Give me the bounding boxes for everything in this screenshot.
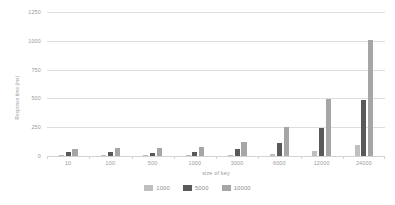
bar-group: 1000 (174, 12, 216, 156)
y-tick-label: 500 (31, 95, 41, 101)
bar (241, 142, 246, 156)
legend-item[interactable]: 5000 (183, 185, 209, 191)
bar (108, 152, 113, 156)
bar (186, 155, 191, 156)
y-tick-label: 250 (31, 124, 41, 130)
x-tick-mark (301, 156, 302, 159)
legend-item[interactable]: 10000 (222, 185, 251, 191)
bar (157, 148, 162, 156)
bar (72, 149, 77, 156)
legend-item[interactable]: 1000 (144, 185, 170, 191)
y-tick-label: 0 (38, 153, 41, 159)
bar (59, 155, 64, 156)
bar-groups: 101005001000300060001200024000 (47, 12, 385, 156)
x-tick-mark (343, 156, 344, 159)
legend-label: 10000 (234, 185, 251, 191)
bar (228, 155, 233, 156)
x-tick-label: 500 (132, 160, 174, 166)
x-tick-label: 3000 (216, 160, 258, 166)
x-tick-label: 24000 (343, 160, 385, 166)
x-tick-label: 100 (89, 160, 131, 166)
bar (143, 155, 148, 156)
y-tick-label: 1250 (28, 9, 41, 15)
legend-swatch-icon (183, 185, 192, 191)
bar (150, 153, 155, 156)
bar (199, 147, 204, 156)
bar-group: 6000 (258, 12, 300, 156)
x-tick-mark (47, 156, 48, 159)
bar-group: 24000 (343, 12, 385, 156)
bar (319, 128, 324, 156)
legend-label: 1000 (156, 185, 170, 191)
bar (284, 127, 289, 156)
bar (277, 143, 282, 156)
x-tick-label: 12000 (301, 160, 343, 166)
legend-label: 5000 (195, 185, 209, 191)
bar-group: 12000 (301, 12, 343, 156)
bar (312, 151, 317, 156)
x-tick-label: 10 (47, 160, 89, 166)
bar-group: 3000 (216, 12, 258, 156)
bar (235, 149, 240, 156)
bar-group: 500 (132, 12, 174, 156)
bar-group: 100 (89, 12, 131, 156)
chart-legend: 1000500010000 (0, 185, 395, 191)
x-tick-mark (216, 156, 217, 159)
legend-swatch-icon (144, 185, 153, 191)
bar (192, 152, 197, 156)
bar-group: 10 (47, 12, 89, 156)
bar (270, 154, 275, 156)
x-tick-label: 6000 (258, 160, 300, 166)
y-tick-label: 1000 (28, 38, 41, 44)
bar (66, 152, 71, 156)
bar-chart: Response time (ms) 025050075010001250 10… (0, 0, 395, 205)
bar (361, 100, 366, 156)
x-tick-mark (89, 156, 90, 159)
x-tick-mark (384, 156, 385, 159)
x-tick-label: 1000 (174, 160, 216, 166)
x-tick-mark (174, 156, 175, 159)
plot-area: 025050075010001250 101005001000300060001… (47, 12, 385, 156)
bar (101, 155, 106, 156)
y-tick-label: 750 (31, 67, 41, 73)
bar (326, 99, 331, 156)
x-tick-mark (132, 156, 133, 159)
y-axis-title: Response time (ms) (15, 53, 20, 143)
bar (368, 40, 373, 156)
legend-swatch-icon (222, 185, 231, 191)
x-axis-title: size of key (47, 170, 385, 176)
bar (355, 145, 360, 156)
bar (115, 148, 120, 156)
x-tick-mark (258, 156, 259, 159)
